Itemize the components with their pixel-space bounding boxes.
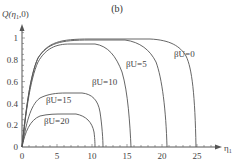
y-tick-label: 0.8 — [7, 55, 19, 65]
series-label-bu15: βU=15 — [46, 95, 72, 105]
curves — [22, 39, 196, 147]
x-axis-arrow-icon — [215, 145, 222, 150]
panel-label: (b) — [111, 3, 123, 15]
y-tick-label: 0 — [14, 142, 19, 152]
chart: 0 5 10 15 20 25 0 0.2 0.4 0.6 0.8 1 Q(η1… — [0, 0, 235, 163]
series-label-bu0: βU=0 — [174, 49, 195, 59]
series-bu10 — [22, 44, 131, 147]
series-label-bu10: βU=10 — [92, 77, 118, 87]
y-tick-label: 0.2 — [7, 120, 18, 130]
y-axis-arrow-icon — [20, 24, 25, 31]
y-tick-label: 0.4 — [7, 99, 19, 109]
x-axis-label: η1 — [224, 143, 232, 154]
x-tick-label: 25 — [193, 151, 203, 161]
series-bu0 — [22, 39, 196, 147]
series-bu5 — [22, 40, 167, 147]
y-tick-label: 1 — [14, 33, 19, 43]
series-label-bu5: βU=5 — [126, 59, 147, 69]
x-tick-label: 0 — [20, 151, 25, 161]
x-tick-label: 20 — [158, 151, 168, 161]
x-tick-label: 5 — [55, 151, 60, 161]
series-label-bu20: βU=20 — [44, 116, 70, 126]
x-tick-label: 10 — [88, 151, 98, 161]
y-tick-label: 0.6 — [7, 77, 19, 87]
y-axis-label: Q(η1,0) — [2, 9, 29, 20]
x-tick-label: 15 — [123, 151, 133, 161]
